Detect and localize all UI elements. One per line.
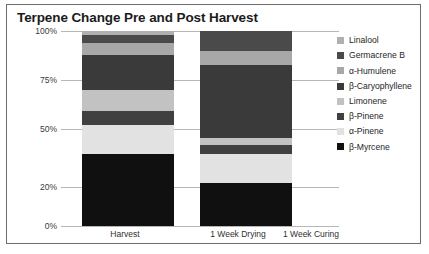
legend-swatch [337, 113, 344, 120]
bar-series-container [61, 31, 339, 226]
bar-segment[interactable] [82, 125, 174, 154]
y-axis-tick-label: 0% [17, 221, 57, 231]
legend-label: Linalool [349, 36, 379, 45]
bar-segment[interactable] [82, 90, 174, 111]
stacked-bar[interactable] [82, 31, 174, 226]
legend-item[interactable]: Germacrene B [337, 48, 419, 63]
x-axis-category-label: 1 Week Curing [275, 229, 347, 239]
bar-segment[interactable] [200, 51, 292, 66]
y-axis-tick-label: 50% [17, 124, 57, 134]
bar-segment[interactable] [200, 138, 292, 145]
bar-segment[interactable] [200, 65, 292, 138]
chart-legend: LinaloolGermacrene Bα-Humuleneβ-Caryophy… [337, 33, 419, 155]
stacked-bar[interactable] [200, 31, 292, 226]
legend-item[interactable]: β-Myrcene [337, 139, 419, 154]
legend-label: α-Humulene [349, 67, 396, 76]
x-axis-category-label: 1 Week Drying [201, 229, 275, 239]
x-axis-category-label: Harvest [79, 229, 171, 239]
bar-segment[interactable] [82, 43, 174, 56]
legend-label: β-Caryophyllene [349, 82, 412, 91]
bar-segment[interactable] [82, 154, 174, 226]
legend-swatch [337, 67, 344, 74]
bar-segment[interactable] [82, 111, 174, 125]
legend-item[interactable]: α-Humulene [337, 63, 419, 78]
legend-label: Germacrene B [349, 51, 405, 60]
legend-item[interactable]: Limonene [337, 94, 419, 109]
legend-swatch [337, 98, 344, 105]
bar-segment[interactable] [82, 35, 174, 43]
legend-item[interactable]: α-Pinene [337, 124, 419, 139]
y-axis-tick-label: 100% [17, 26, 57, 36]
gridline [61, 226, 339, 227]
bar-segment[interactable] [200, 183, 292, 226]
legend-label: Limonene [349, 97, 387, 106]
legend-swatch [337, 143, 344, 150]
bar-segment[interactable] [200, 31, 292, 51]
chart-title: Terpene Change Pre and Post Harvest [17, 10, 258, 25]
chart-card: Terpene Change Pre and Post Harvest 100%… [6, 4, 421, 244]
legend-item[interactable]: β-Pinene [337, 109, 419, 124]
bar-segment[interactable] [82, 55, 174, 89]
legend-item[interactable]: β-Caryophyllene [337, 79, 419, 94]
legend-label: α-Pinene [349, 127, 384, 136]
y-axis-tick-label: 75% [17, 75, 57, 85]
y-axis-tick-label: 20% [17, 182, 57, 192]
legend-label: β-Pinene [349, 112, 384, 121]
legend-item[interactable]: Linalool [337, 33, 419, 48]
legend-label: β-Myrcene [349, 143, 390, 152]
bar-segment[interactable] [200, 145, 292, 154]
legend-swatch [337, 37, 344, 44]
bar-segment[interactable] [200, 154, 292, 183]
legend-swatch [337, 52, 344, 59]
legend-swatch [337, 83, 344, 90]
legend-swatch [337, 128, 344, 135]
